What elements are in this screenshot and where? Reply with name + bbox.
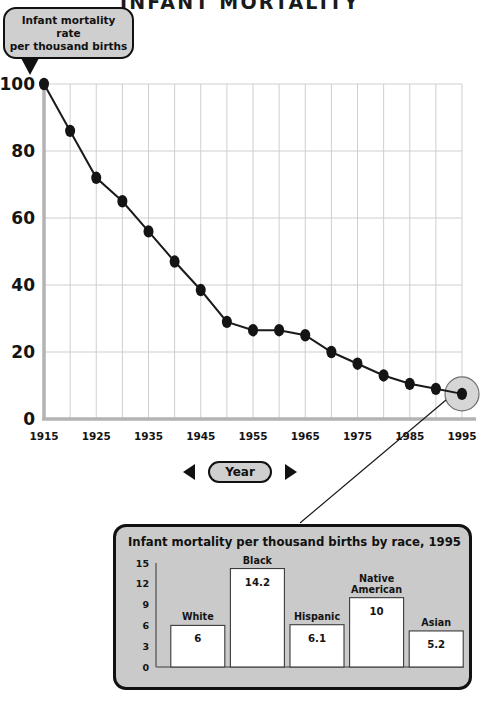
x-tick-label: 1925 bbox=[82, 430, 111, 442]
year-stepper[interactable]: Year bbox=[0, 461, 480, 483]
x-tick-label: 1975 bbox=[343, 430, 372, 442]
x-tick-label: 1945 bbox=[186, 430, 215, 442]
data-point-marker bbox=[457, 388, 467, 400]
bar-category-label: Asian bbox=[421, 617, 451, 628]
data-point-marker bbox=[144, 225, 154, 237]
bar-value-label: 6.1 bbox=[308, 633, 326, 644]
data-point-marker bbox=[353, 358, 363, 370]
y-tick-label: 40 bbox=[11, 275, 35, 295]
data-point-marker bbox=[431, 383, 441, 395]
right-triangle-icon[interactable] bbox=[285, 464, 297, 480]
y-tick-label: 60 bbox=[11, 208, 35, 228]
data-point-marker bbox=[405, 378, 415, 390]
data-point-marker bbox=[222, 316, 232, 328]
bar-y-tick-label: 3 bbox=[142, 641, 149, 652]
vertical-gridlines bbox=[44, 84, 462, 419]
infant-mortality-by-race-bar-chart: 03691215 White6Black14.2Hispanic6.1Nativ… bbox=[116, 555, 469, 687]
x-tick-label: 1985 bbox=[395, 430, 424, 442]
bar-value-label: 5.2 bbox=[427, 639, 445, 650]
x-tick-label: 1915 bbox=[29, 430, 58, 442]
bar-y-tick-label: 9 bbox=[142, 599, 149, 610]
bar-category-label: Black bbox=[243, 555, 273, 566]
data-point-marker bbox=[326, 346, 336, 358]
bar-rect bbox=[290, 625, 344, 667]
data-point-marker bbox=[39, 78, 49, 90]
x-axis-tick-labels: 191519251935194519551965197519851995 bbox=[29, 430, 476, 442]
bar-value-label: 14.2 bbox=[245, 577, 270, 588]
data-point-marker bbox=[65, 125, 75, 137]
data-point-marker bbox=[117, 195, 127, 207]
x-tick-label: 1995 bbox=[447, 430, 476, 442]
year-stepper-label[interactable]: Year bbox=[208, 461, 272, 483]
y-tick-label: 100 bbox=[0, 74, 35, 94]
data-point-marker bbox=[248, 324, 258, 336]
data-point-marker bbox=[274, 324, 284, 336]
race-breakdown-panel: Infant mortality per thousand births by … bbox=[113, 524, 472, 690]
infant-mortality-line-chart: 020406080100 191519251935194519551965197… bbox=[0, 0, 480, 500]
y-tick-label: 0 bbox=[23, 409, 35, 429]
data-point-marker bbox=[379, 369, 389, 381]
bar-y-tick-label: 6 bbox=[142, 620, 149, 631]
y-tick-label: 80 bbox=[11, 141, 35, 161]
axis-lines bbox=[42, 82, 476, 419]
bar-y-tick-label: 15 bbox=[136, 558, 149, 569]
bar-rect bbox=[171, 625, 225, 667]
bar-y-tick-label: 12 bbox=[136, 578, 149, 589]
x-tick-label: 1935 bbox=[134, 430, 163, 442]
data-point-marker bbox=[300, 329, 310, 341]
bar-y-tick-label: 0 bbox=[142, 662, 149, 673]
inset-panel-title: Infant mortality per thousand births by … bbox=[128, 535, 461, 549]
bar-y-axis-tick-labels: 03691215 bbox=[136, 558, 150, 673]
bar-value-label: 10 bbox=[370, 606, 384, 617]
bar-category-label: White bbox=[182, 611, 214, 622]
data-point-marker bbox=[170, 255, 180, 267]
data-point-marker bbox=[196, 284, 206, 296]
bar-category-label: Native bbox=[359, 573, 395, 584]
y-tick-label: 20 bbox=[11, 342, 35, 362]
bar-category-label: Hispanic bbox=[294, 611, 340, 622]
bar-value-label: 6 bbox=[194, 633, 201, 644]
left-triangle-icon[interactable] bbox=[183, 464, 195, 480]
x-tick-label: 1965 bbox=[291, 430, 320, 442]
data-point-marker bbox=[91, 172, 101, 184]
y-axis-tick-labels: 020406080100 bbox=[0, 74, 35, 429]
bar-category-label: American bbox=[351, 584, 402, 595]
x-tick-label: 1955 bbox=[238, 430, 267, 442]
